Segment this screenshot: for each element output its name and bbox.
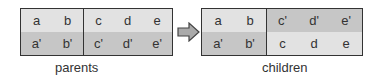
parents-row-2-right: c' d' e' [84, 32, 172, 55]
parents-row-1: a b c d e [21, 9, 172, 33]
gene: a' [213, 36, 223, 51]
gene: e' [152, 36, 162, 51]
parents-row-1-right: c d e [84, 9, 172, 32]
right-arrow-icon [177, 22, 200, 42]
parents-caption: parents [55, 60, 98, 75]
parents-row-1-left: a b [21, 9, 84, 32]
gene: a' [32, 36, 42, 51]
gene: d [311, 36, 318, 51]
gene: c' [94, 36, 103, 51]
children-grid: a b c' d' e' a' b' c d e [201, 8, 363, 56]
gene: c [95, 13, 102, 28]
gene: c [279, 36, 286, 51]
parents-row-2-left: a' b' [21, 32, 84, 55]
gene: e' [341, 13, 351, 28]
children-row-2-left: a' b' [202, 32, 267, 55]
gene: d' [123, 36, 133, 51]
children-row-1-right: c' d' e' [267, 9, 362, 32]
children-row-2: a' b' c d e [202, 32, 362, 55]
gene: a [214, 13, 221, 28]
gene: b [246, 13, 253, 28]
gene: d' [309, 13, 319, 28]
children-row-1-left: a b [202, 9, 267, 32]
children-row-1: a b c' d' e' [202, 9, 362, 33]
parents-grid: a b c d e a' b' c' d' e' [20, 8, 173, 56]
children-caption: children [262, 60, 308, 75]
gene: b' [63, 36, 73, 51]
parents-row-2: a' b' c' d' e' [21, 32, 172, 55]
gene: b' [245, 36, 255, 51]
gene: a [33, 13, 40, 28]
gene: d [124, 13, 131, 28]
gene: e [342, 36, 349, 51]
gene: b [64, 13, 71, 28]
children-row-2-right: c d e [267, 32, 362, 55]
gene: e [154, 13, 161, 28]
gene: c' [278, 13, 287, 28]
